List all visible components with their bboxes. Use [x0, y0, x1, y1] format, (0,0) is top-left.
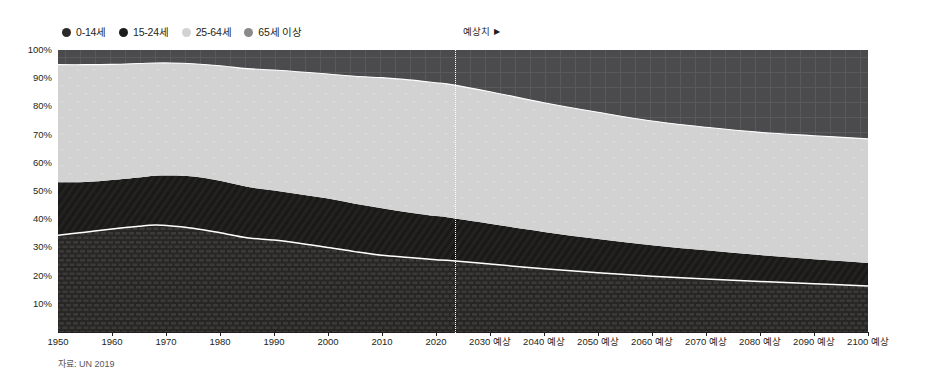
x-axis-tick-mark [544, 332, 545, 336]
x-axis-tick: 2050 예상 [577, 337, 619, 347]
legend-label: 65세 이상 [258, 27, 301, 38]
x-axis-tick: 1990 [263, 337, 284, 347]
chart-legend: 0-14세 15-24세 25-64세 65세 이상 [62, 24, 302, 40]
arrow-right-icon: ▶ [494, 28, 500, 36]
circle-icon [244, 28, 253, 37]
x-axis-tick: 2030 예상 [469, 337, 511, 347]
x-axis-tick-mark [490, 332, 491, 336]
x-axis-tick: 2010 [371, 337, 392, 347]
x-axis-tick-mark [814, 332, 815, 336]
x-axis-tick: 2020 [425, 337, 446, 347]
circle-icon [62, 28, 71, 37]
x-axis-tick: 2000 [317, 337, 338, 347]
chart-page: 0-14세 15-24세 25-64세 65세 이상 100%90%80%70%… [0, 0, 925, 389]
x-axis-tick-mark [760, 332, 761, 336]
x-axis-line [58, 332, 869, 333]
y-axis-tick: 100% [28, 45, 52, 55]
circle-icon [119, 28, 128, 37]
legend-item-25-64[interactable]: 25-64세 [182, 27, 232, 38]
x-axis-tick: 2080 예상 [739, 337, 781, 347]
y-axis-labels: 100%90%80%70%60%50%40%30%20%10% [0, 0, 52, 389]
x-axis-tick: 2070 예상 [685, 337, 727, 347]
y-axis-tick: 80% [33, 101, 52, 111]
x-axis-tick-mark [220, 332, 221, 336]
legend-item-65-plus[interactable]: 65세 이상 [244, 27, 301, 38]
y-axis-tick: 90% [33, 73, 52, 83]
x-axis-tick: 2090 예상 [793, 337, 835, 347]
x-axis-tick: 2100 예상 [847, 337, 889, 347]
x-axis-tick-mark [436, 332, 437, 336]
x-axis-tick-mark [166, 332, 167, 336]
x-axis-tick-mark [598, 332, 599, 336]
forecast-annotation: 예상치 ▶ [463, 27, 500, 37]
legend-label: 25-64세 [196, 27, 232, 38]
y-axis-tick: 30% [33, 242, 52, 252]
x-axis-tick-mark [868, 332, 869, 336]
x-axis-tick: 1980 [209, 337, 230, 347]
x-axis-tick-mark [382, 332, 383, 336]
y-axis-tick: 10% [33, 299, 52, 309]
x-axis-tick: 1950 [47, 337, 68, 347]
x-axis-tick: 2060 예상 [631, 337, 673, 347]
y-axis-tick: 40% [33, 214, 52, 224]
y-axis-tick: 70% [33, 130, 52, 140]
legend-item-0-14[interactable]: 0-14세 [62, 27, 106, 38]
forecast-label: 예상치 [463, 27, 490, 37]
forecast-divider-line [455, 30, 456, 333]
legend-label: 0-14세 [76, 27, 106, 38]
circle-icon [182, 28, 191, 37]
x-axis-tick-mark [112, 332, 113, 336]
stacked-area-chart [58, 50, 868, 332]
legend-label: 15-24세 [133, 27, 169, 38]
y-axis-tick: 20% [33, 271, 52, 281]
source-note: 자료: UN 2019 [58, 360, 115, 369]
legend-item-15-24[interactable]: 15-24세 [119, 27, 169, 38]
y-axis-tick: 50% [33, 186, 52, 196]
x-axis-tick-mark [328, 332, 329, 336]
x-axis-tick-mark [706, 332, 707, 336]
x-axis-labels: 195019601970198019902000201020202030 예상2… [0, 337, 925, 355]
x-axis-tick: 2040 예상 [523, 337, 565, 347]
chart-plot-area [58, 50, 868, 332]
x-axis-tick-mark [274, 332, 275, 336]
y-axis-tick: 60% [33, 158, 52, 168]
x-axis-tick-mark [652, 332, 653, 336]
x-axis-tick: 1960 [101, 337, 122, 347]
x-axis-tick: 1970 [155, 337, 176, 347]
